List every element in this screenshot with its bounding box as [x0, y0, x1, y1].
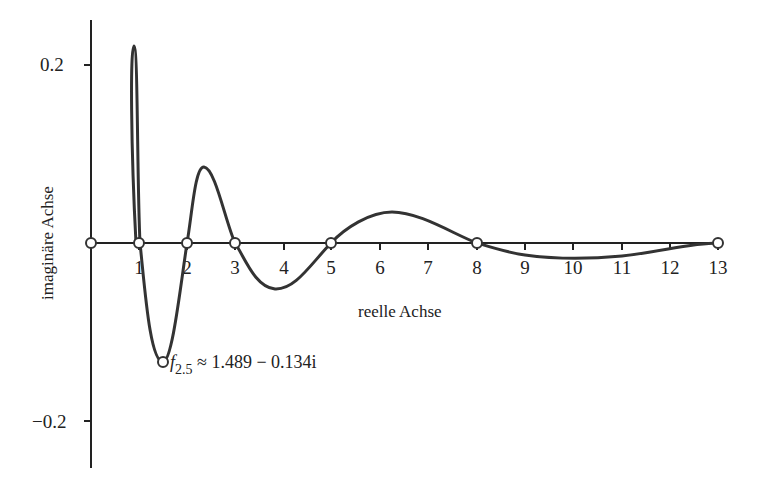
svg-text:7: 7	[423, 257, 433, 278]
svg-text:10: 10	[564, 257, 583, 278]
x-axis-label: reelle Achse	[358, 302, 442, 321]
svg-text:8: 8	[472, 257, 482, 278]
svg-text:4: 4	[279, 257, 289, 278]
svg-text:11: 11	[613, 257, 631, 278]
y-axis-label: imaginäre Achse	[38, 186, 57, 300]
chart: 0.2 −0.2 1 2 3 4 5 6 7 8 9 10 11 12 13 r…	[0, 0, 764, 491]
svg-text:6: 6	[375, 257, 385, 278]
svg-text:13: 13	[709, 257, 728, 278]
svg-text:12: 12	[661, 257, 680, 278]
annotation-f2.5: f2.5 ≈ 1.489 − 0.134i	[170, 352, 317, 377]
svg-text:3: 3	[230, 257, 240, 278]
svg-text:5: 5	[326, 257, 336, 278]
y-tick-label-neg-0.2: −0.2	[32, 411, 66, 432]
svg-text:9: 9	[520, 257, 530, 278]
x-ticks	[139, 243, 718, 250]
y-tick-label-0.2: 0.2	[40, 54, 64, 75]
x-tick-labels: 1 2 3 4 5 6 7 8 9 10 11 12 13	[134, 257, 727, 278]
